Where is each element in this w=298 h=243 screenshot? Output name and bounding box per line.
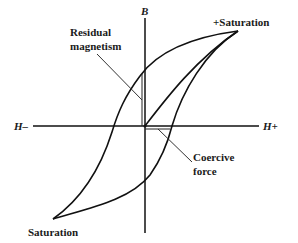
- origin-point: [143, 124, 146, 127]
- residual-magnetism-leader: [97, 54, 142, 100]
- b-axis-label: B: [140, 5, 148, 17]
- residual-magnetism-label-line2: magnetism: [70, 40, 121, 52]
- hysteresis-diagram: B H– H+ +Saturation Saturation Residual …: [0, 0, 298, 243]
- h-negative-label: H–: [13, 120, 29, 132]
- coercive-force-label-line1: Coercive: [193, 151, 234, 163]
- coercive-force-leader: [158, 129, 192, 162]
- negative-saturation-label: Saturation: [28, 226, 78, 238]
- coercive-force-label-line2: force: [193, 165, 217, 177]
- residual-magnetism-label-line1: Residual: [70, 26, 111, 38]
- positive-saturation-label: +Saturation: [213, 16, 269, 28]
- h-positive-label: H+: [262, 120, 278, 132]
- initial-magnetization-curve: [145, 31, 238, 126]
